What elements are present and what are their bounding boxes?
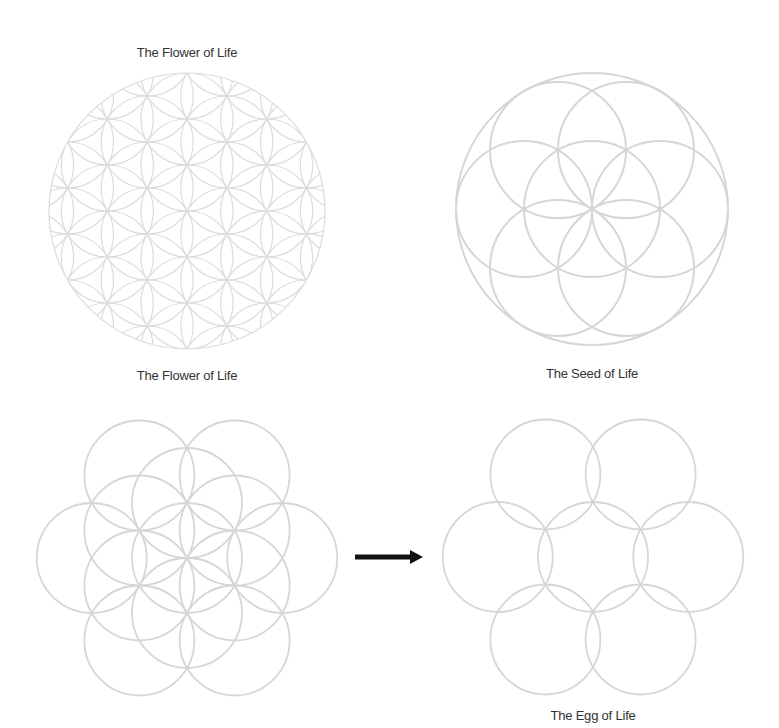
- arrow-shaft: [355, 555, 411, 560]
- egg-circle: [586, 585, 696, 695]
- flower-of-life-bottom-label: The Flower of Life: [137, 368, 237, 383]
- egg-circle: [443, 502, 553, 612]
- lattice-circle: [0, 119, 74, 211]
- lattice-circle: [0, 165, 74, 257]
- lattice-circle: [61, 27, 153, 119]
- seed-of-life-figure: [456, 73, 728, 345]
- egg-circle: [490, 420, 600, 530]
- lattice-circle: [300, 165, 392, 257]
- egg-of-life-label: The Egg of Life: [550, 708, 635, 723]
- egg-circle: [490, 585, 600, 695]
- lattice-circle: [221, 27, 313, 119]
- egg-of-life-figure: [443, 420, 744, 695]
- lattice-circle: [300, 211, 392, 303]
- lattice-circle: [261, 50, 353, 142]
- lattice-circle: [300, 119, 392, 211]
- lattice-circle: [21, 280, 113, 372]
- sacred-geometry-diagram: [0, 0, 779, 728]
- lattice-circle: [0, 211, 74, 303]
- egg-circle: [633, 502, 743, 612]
- seed-of-life-label: The Seed of Life: [546, 366, 638, 381]
- flower-of-life-13-circle-figure: [37, 421, 338, 696]
- arrow-head: [410, 550, 423, 564]
- lattice-circle: [21, 50, 113, 142]
- egg-circle: [586, 420, 696, 530]
- flower-of-life-top-label: The Flower of Life: [137, 45, 237, 60]
- center-circle: [538, 502, 648, 612]
- flower-of-life-full-figure: [0, 4, 392, 418]
- lattice-circle: [261, 280, 353, 372]
- right-arrow-icon: [355, 550, 423, 564]
